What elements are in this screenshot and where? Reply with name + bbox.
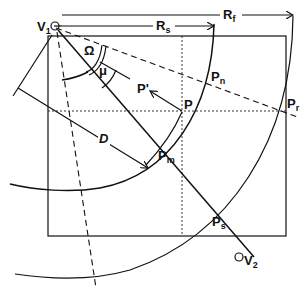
label-v2: V2 (244, 253, 258, 270)
label-p-prime: P' (137, 81, 149, 96)
p-prime-arrow (150, 91, 182, 111)
label-v1: V1 (37, 19, 51, 36)
label-pm: Pm (158, 148, 175, 165)
label-mu: μ (99, 63, 107, 78)
label-pn: Pn (211, 69, 225, 86)
d-dimension-arrow (18, 88, 148, 168)
angle-arc (62, 72, 88, 80)
label-ps: Ps (212, 214, 226, 231)
label-omega: Ω (84, 43, 94, 58)
arc-rf (15, 16, 293, 278)
label-p: P (184, 97, 193, 112)
label-pr: Pr (287, 96, 300, 113)
perpendicular-line (13, 35, 52, 96)
v2-marker (235, 253, 243, 261)
label-d: D (99, 131, 109, 146)
square-region (48, 36, 286, 236)
geometry-diagram: V1 V2 Rs Rf Ω μ P' P Pn Pr Pm Ps D (0, 0, 306, 292)
